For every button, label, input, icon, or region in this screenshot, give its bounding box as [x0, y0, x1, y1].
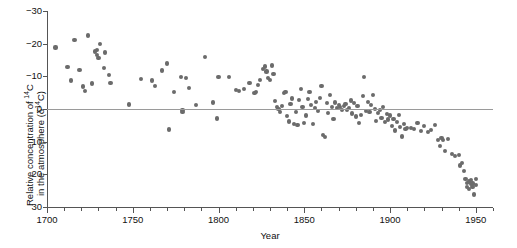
data-point — [167, 127, 171, 131]
data-point — [328, 93, 332, 97]
x-minor-tick — [459, 208, 460, 211]
x-major-tick — [219, 208, 220, 213]
data-point — [98, 42, 102, 46]
y-tick-label: −10 — [11, 71, 42, 81]
data-point — [81, 84, 85, 88]
data-point — [72, 38, 76, 42]
x-minor-tick — [81, 208, 82, 211]
y-tick — [43, 142, 47, 143]
data-point — [299, 87, 303, 91]
data-point — [326, 111, 330, 115]
data-point — [354, 114, 358, 118]
data-point — [179, 75, 183, 79]
y-tick-label: 30 — [11, 202, 42, 212]
data-point — [263, 64, 267, 68]
x-minor-tick — [201, 208, 202, 211]
data-point — [150, 78, 154, 82]
data-point — [400, 134, 404, 138]
ylabel-part4: C) — [35, 91, 46, 101]
x-minor-tick — [253, 208, 254, 211]
x-minor-tick — [373, 208, 374, 211]
data-point — [107, 73, 111, 77]
x-minor-tick — [493, 208, 494, 211]
data-point — [153, 84, 157, 88]
data-point — [290, 96, 294, 100]
x-tick-label: 1700 — [22, 215, 72, 225]
data-point — [422, 124, 426, 128]
ylabel-part2: C — [24, 84, 35, 91]
data-point — [187, 86, 191, 90]
y-tick — [43, 174, 47, 175]
data-point — [474, 177, 478, 181]
x-major-tick — [47, 208, 48, 213]
data-point — [160, 68, 164, 72]
x-axis-label: Year — [210, 231, 330, 241]
data-point — [307, 90, 311, 94]
data-point — [295, 123, 299, 127]
data-point — [288, 102, 292, 106]
x-minor-tick — [287, 208, 288, 211]
data-point — [165, 61, 169, 65]
data-point — [302, 121, 306, 125]
x-major-tick — [304, 208, 305, 213]
x-minor-tick — [98, 208, 99, 211]
data-point — [53, 45, 57, 49]
data-point — [287, 119, 291, 123]
data-point — [256, 83, 260, 87]
data-point — [306, 97, 310, 101]
x-tick-label: 1950 — [451, 215, 501, 225]
data-point — [278, 110, 282, 114]
ylabel-sup1: 14 — [23, 91, 30, 99]
data-point — [65, 65, 69, 69]
data-point — [83, 89, 87, 93]
data-point — [102, 66, 106, 70]
data-point — [254, 90, 258, 94]
data-point — [474, 183, 478, 187]
data-point — [215, 116, 219, 120]
x-minor-tick — [407, 208, 408, 211]
data-point — [311, 122, 315, 126]
data-point — [393, 128, 397, 132]
data-point — [395, 120, 399, 124]
data-point — [319, 84, 323, 88]
x-tick-label: 1800 — [194, 215, 244, 225]
y-tick-label: 20 — [11, 169, 42, 179]
x-minor-tick — [116, 208, 117, 211]
y-tick — [43, 11, 47, 12]
x-major-tick — [390, 208, 391, 213]
data-point — [95, 48, 99, 52]
data-point — [258, 78, 262, 82]
data-point — [362, 75, 366, 79]
data-point — [355, 104, 359, 108]
data-point — [374, 119, 378, 123]
data-point — [412, 127, 416, 131]
x-minor-tick — [150, 208, 151, 211]
data-point — [194, 103, 198, 107]
data-point — [273, 99, 277, 103]
ylabel-part3: in the atmosphere (δ — [35, 109, 46, 196]
data-point — [462, 169, 466, 173]
y-tick — [43, 76, 47, 77]
y-tick-label: −30 — [11, 6, 42, 16]
x-minor-tick — [184, 208, 185, 211]
x-minor-tick — [321, 208, 322, 211]
x-minor-tick — [356, 208, 357, 211]
data-point — [325, 101, 329, 105]
data-point — [457, 153, 461, 157]
data-point — [433, 123, 437, 127]
data-point — [247, 81, 251, 85]
data-point — [419, 129, 423, 133]
data-point — [397, 113, 401, 117]
x-minor-tick — [64, 208, 65, 211]
data-point — [441, 138, 445, 142]
data-point — [268, 78, 272, 82]
y-tick-label: 0 — [11, 104, 42, 114]
data-point — [304, 113, 308, 117]
x-major-tick — [476, 208, 477, 213]
y-tick — [43, 109, 47, 110]
data-point — [203, 55, 207, 59]
data-point — [139, 77, 143, 81]
x-minor-tick — [442, 208, 443, 211]
data-point — [390, 124, 394, 128]
ylabel-part1: Relative concentration of — [24, 99, 35, 206]
